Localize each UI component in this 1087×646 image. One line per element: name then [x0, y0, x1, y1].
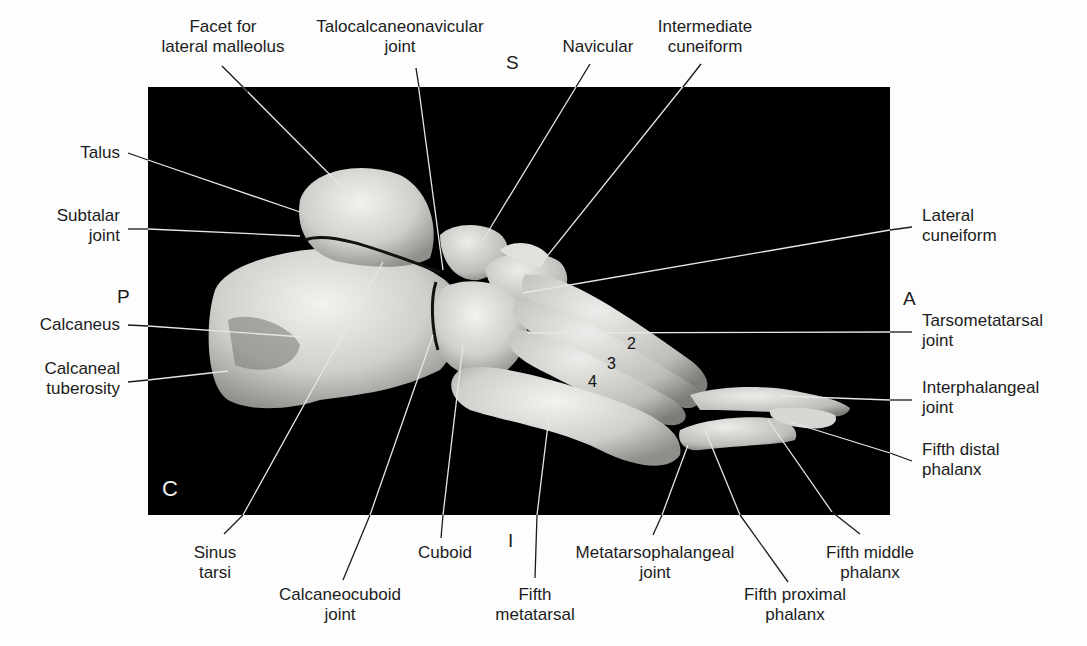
label-calcaneal-tuberosity: Calcaneal tuberosity	[0, 359, 120, 399]
orientation-inferior: I	[508, 530, 513, 552]
view-marker: C	[162, 476, 178, 502]
label-tarsometatarsal-joint: Tarsometatarsal joint	[922, 311, 1087, 351]
label-interphalangeal-joint: Interphalangeal joint	[922, 378, 1087, 418]
label-fifth-middle-phalanx: Fifth middle phalanx	[800, 543, 940, 583]
metatarsal-number-4: 4	[588, 373, 597, 391]
label-navicular: Navicular	[548, 37, 648, 57]
label-sinus-tarsi: Sinus tarsi	[170, 543, 260, 583]
bones	[209, 168, 850, 466]
label-fifth-proximal-phalanx: Fifth proximal phalanx	[720, 585, 870, 625]
label-lateral-cuneiform: Lateral cuneiform	[922, 206, 1082, 246]
label-calcaneocuboid-joint: Calcaneocuboid joint	[255, 585, 425, 625]
label-talus: Talus	[0, 143, 120, 163]
orientation-superior: S	[506, 52, 519, 74]
label-facet-lateral-malleolus: Facet for lateral malleolus	[143, 17, 303, 57]
orientation-posterior: P	[117, 286, 130, 308]
metatarsal-number-2: 2	[627, 335, 636, 353]
label-metatarsophalangeal-joint: Metatarsophalangeal joint	[545, 543, 765, 583]
label-intermediate-cuneiform: Intermediate cuneiform	[645, 17, 765, 57]
label-fifth-distal-phalanx: Fifth distal phalanx	[922, 440, 1082, 480]
label-fifth-metatarsal: Fifth metatarsal	[480, 585, 590, 625]
orientation-anterior: A	[903, 288, 916, 310]
label-talocalcaneonavicular-joint: Talocalcaneonavicular joint	[300, 17, 500, 57]
label-calcaneus: Calcaneus	[0, 315, 120, 335]
metatarsal-number-3: 3	[607, 355, 616, 373]
label-cuboid: Cuboid	[400, 543, 490, 563]
label-subtalar-joint: Subtalar joint	[0, 206, 120, 246]
